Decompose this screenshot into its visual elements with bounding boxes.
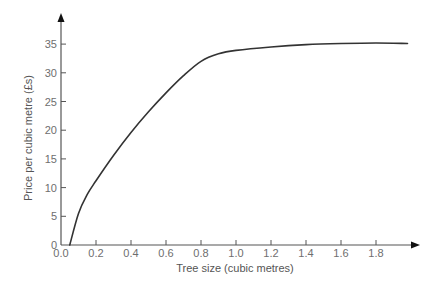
x-tick-label: 1.8 [368,247,383,259]
y-tick-label: 30 [45,67,57,79]
y-tick-label: 25 [45,96,57,108]
x-tick-label: 1.4 [298,247,313,259]
price-curve-line [70,43,408,245]
x-tick-label: 1.2 [263,247,278,259]
y-tick-label: 20 [45,124,57,136]
y-tick-label: 35 [45,38,57,50]
y-tick-label: 5 [51,210,57,222]
y-tick-label: 15 [45,153,57,165]
x-tick-label: 0.8 [193,247,208,259]
x-tick-label: 0.4 [123,247,138,259]
price-vs-tree-size-chart: 05101520253035 0.00.20.40.60.81.01.21.41… [0,0,437,286]
x-tick-label: 1.6 [333,247,348,259]
x-tick-label: 0.2 [88,247,103,259]
y-axis-title: Price per cubic metre (£s) [22,75,34,201]
x-tick-label: 1.0 [228,247,243,259]
x-axis: 0.00.20.40.60.81.01.21.41.61.8 [53,240,420,259]
y-axis: 05101520253035 [45,13,66,251]
x-tick-label: 0.0 [53,247,68,259]
y-axis-arrow-icon [58,13,65,22]
x-axis-arrow-icon [411,242,420,249]
y-tick-label: 10 [45,182,57,194]
x-axis-title: Tree size (cubic metres) [176,262,294,274]
x-tick-label: 0.6 [158,247,173,259]
plot-area [70,43,408,245]
